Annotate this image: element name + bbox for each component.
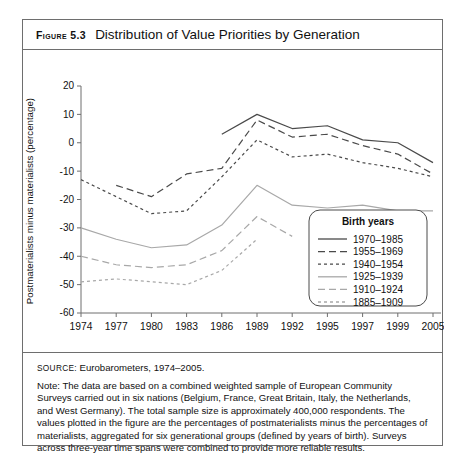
svg-text:-20: -20 bbox=[60, 194, 75, 205]
svg-text:1970–1985: 1970–1985 bbox=[353, 234, 403, 245]
svg-text:1999: 1999 bbox=[386, 321, 409, 332]
svg-text:1980: 1980 bbox=[140, 321, 163, 332]
svg-text:1992: 1992 bbox=[281, 321, 304, 332]
note-text: Note: The data are based on a combined w… bbox=[37, 380, 428, 454]
svg-text:1925–1939: 1925–1939 bbox=[353, 271, 403, 282]
svg-text:1940–1954: 1940–1954 bbox=[353, 259, 403, 270]
source-text: Eurobarometers, 1974–2005. bbox=[80, 362, 205, 373]
svg-text:1974: 1974 bbox=[70, 321, 93, 332]
svg-text:-60: -60 bbox=[60, 307, 75, 318]
svg-text:10: 10 bbox=[63, 109, 75, 120]
source-line: Source: Eurobarometers, 1974–2005. bbox=[37, 362, 428, 373]
svg-text:20: 20 bbox=[63, 80, 75, 91]
line-chart: 20100-10-20-30-40-50-6019741977198019831… bbox=[23, 50, 444, 352]
figure-header: Figure 5.3 Distribution of Value Priorit… bbox=[23, 20, 442, 50]
source-tag: Source: bbox=[37, 363, 77, 373]
figure-title: Distribution of Value Priorities by Gene… bbox=[95, 27, 360, 42]
figure-number: Figure 5.3 bbox=[36, 29, 86, 41]
svg-text:1995: 1995 bbox=[316, 321, 339, 332]
svg-text:-50: -50 bbox=[60, 279, 75, 290]
svg-text:-30: -30 bbox=[60, 222, 75, 233]
svg-text:1989: 1989 bbox=[246, 321, 269, 332]
svg-text:1910–1924: 1910–1924 bbox=[353, 284, 403, 295]
figure-card: Figure 5.3 Distribution of Value Priorit… bbox=[22, 19, 443, 446]
svg-text:-10: -10 bbox=[60, 166, 75, 177]
figure-footer: Source: Eurobarometers, 1974–2005. Note:… bbox=[23, 352, 442, 446]
svg-text:2005: 2005 bbox=[422, 321, 444, 332]
svg-text:1986: 1986 bbox=[210, 321, 233, 332]
svg-text:1983: 1983 bbox=[175, 321, 198, 332]
svg-text:1977: 1977 bbox=[105, 321, 128, 332]
svg-text:1997: 1997 bbox=[351, 321, 374, 332]
svg-text:1885–1909: 1885–1909 bbox=[353, 297, 403, 308]
plot-area: Postmaterialists minus materialists (per… bbox=[23, 50, 442, 352]
svg-text:0: 0 bbox=[68, 137, 74, 148]
svg-text:Birth years: Birth years bbox=[342, 216, 395, 227]
svg-text:-40: -40 bbox=[60, 251, 75, 262]
svg-text:1955–1969: 1955–1969 bbox=[353, 246, 403, 257]
